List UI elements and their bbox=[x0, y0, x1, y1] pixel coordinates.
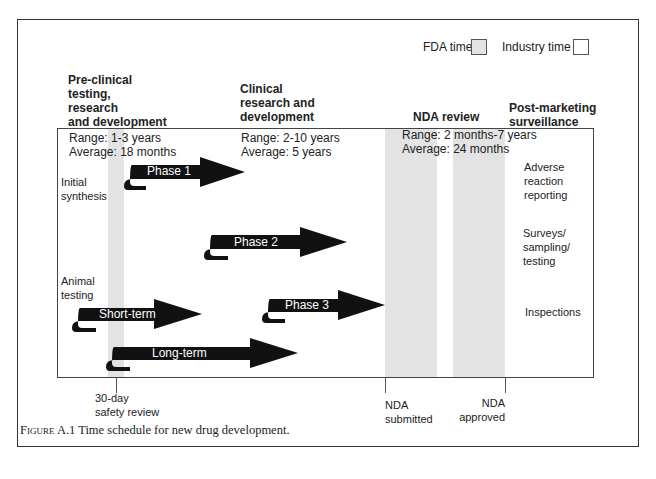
nda-approved-tick bbox=[505, 378, 506, 393]
caption-prefix: Figure bbox=[20, 423, 54, 437]
caption-text: Time schedule for new drug development. bbox=[78, 423, 289, 437]
nda-approved-label: NDA approved bbox=[455, 396, 505, 424]
figure-caption: Figure A.1 Time schedule for new drug de… bbox=[20, 423, 290, 438]
safety-review-label: 30-day safety review bbox=[95, 391, 159, 419]
long-term-label: Long-term bbox=[152, 346, 207, 360]
nda-submitted-tick bbox=[385, 378, 386, 393]
nda-submitted-label: NDA submitted bbox=[385, 398, 433, 426]
caption-number: A.1 bbox=[57, 423, 75, 437]
